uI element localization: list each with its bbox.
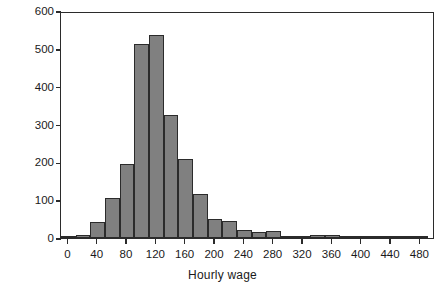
x-axis-tick: [301, 239, 302, 244]
y-axis-tick-label: 600: [14, 6, 54, 18]
histogram-bar: [164, 115, 179, 238]
histogram-bar: [61, 236, 76, 238]
histogram-bar: [134, 44, 149, 238]
histogram-bar: [90, 222, 105, 238]
y-axis-tick-label: 300: [14, 120, 54, 132]
histogram-bar: [149, 35, 164, 238]
x-axis-tick: [272, 239, 273, 244]
histogram-bar: [266, 231, 281, 238]
histogram-bar: [105, 198, 120, 238]
histogram-bar: [193, 194, 208, 238]
histogram-bar: [76, 235, 91, 238]
histogram-bar: [281, 236, 296, 238]
histogram-bar: [252, 232, 267, 238]
histogram-bar: [384, 236, 399, 238]
x-axis-tick: [419, 239, 420, 244]
x-axis-tick: [213, 239, 214, 244]
x-axis-tick: [96, 239, 97, 244]
y-axis-tick-label: 200: [14, 157, 54, 169]
y-axis-tick-label: 400: [14, 82, 54, 94]
histogram-bar: [237, 230, 252, 238]
histogram-bar: [178, 159, 193, 238]
histogram-figure: Frequency 0100200300400500600 0408012016…: [0, 0, 445, 292]
y-axis-tick-label: 0: [14, 233, 54, 245]
histogram-bar: [120, 164, 135, 238]
histogram-bar: [354, 236, 369, 238]
histogram-bar: [222, 221, 237, 238]
x-axis-tick: [155, 239, 156, 244]
x-axis-title: Hourly wage: [0, 268, 445, 282]
histogram-bar: [369, 236, 384, 238]
histogram-bar: [398, 236, 413, 238]
histogram-bar: [413, 236, 428, 238]
histogram-bar: [296, 236, 311, 238]
x-axis-tick: [331, 239, 332, 244]
x-axis-tick: [243, 239, 244, 244]
histogram-bar: [325, 235, 340, 238]
x-axis-tick: [389, 239, 390, 244]
histogram-bar: [340, 236, 355, 238]
x-axis-tick: [184, 239, 185, 244]
y-axis-tick-label: 100: [14, 195, 54, 207]
x-axis-tick: [125, 239, 126, 244]
x-axis-tick: [67, 239, 68, 244]
x-axis-tick: [360, 239, 361, 244]
x-axis-tick-label: 480: [399, 248, 439, 261]
y-axis-tick-label: 500: [14, 44, 54, 56]
plot-area: [60, 12, 434, 239]
histogram-bar: [208, 219, 223, 238]
histogram-bars: [61, 13, 433, 238]
histogram-bar: [310, 235, 325, 238]
